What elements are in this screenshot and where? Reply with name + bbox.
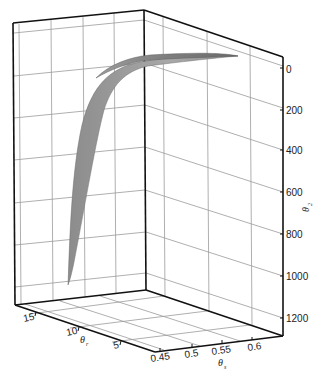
z-tick-label: 1000 <box>286 271 309 282</box>
x-axis-title-subscript: s <box>224 364 227 370</box>
z-tick-label: 400 <box>286 145 303 156</box>
x-tick-label: 0.5 <box>184 347 200 360</box>
y-axis-title: θ <box>80 334 85 345</box>
z-axis-title: θ <box>300 207 311 212</box>
x-tick-label: 0.55 <box>211 343 232 357</box>
y-tick-label: 15 <box>22 311 36 324</box>
x-tick-label: 0.45 <box>150 350 171 364</box>
z-tick-label: 0 <box>286 64 292 75</box>
y-axis-title-subscript: r <box>86 341 89 347</box>
floor-grid <box>25 296 250 350</box>
z-tick-label: 200 <box>286 105 303 116</box>
z-tick-label: 1200 <box>286 313 309 324</box>
x-axis: 0.45 0.5 0.55 0.6 θ s <box>150 337 263 370</box>
x-tick-label: 0.6 <box>247 340 263 353</box>
z-tick-label: 600 <box>286 187 303 198</box>
z-axis-title-subscript: 2 <box>307 203 313 206</box>
x-axis-title: θ <box>218 357 223 368</box>
surface-plot-3d: 0 200 400 600 800 1000 1200 θ 2 15 10 5 … <box>0 0 323 377</box>
z-axis: 0 200 400 600 800 1000 1200 θ 2 <box>280 64 313 324</box>
z-tick-label: 800 <box>286 229 303 240</box>
